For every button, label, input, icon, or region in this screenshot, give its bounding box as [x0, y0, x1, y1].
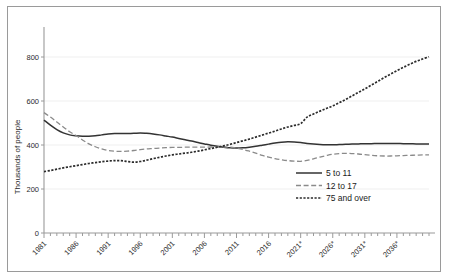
- y-axis-tick-labels: 0200400600800: [26, 53, 39, 238]
- series-line: [44, 113, 429, 162]
- x-tick-label: 2036*: [381, 239, 401, 259]
- y-tick-label: 0: [35, 229, 39, 238]
- x-axis-tick-labels: 198119861991199620012006201120162021*202…: [30, 239, 401, 259]
- y-tick-label: 400: [26, 141, 39, 150]
- legend-label: 5 to 11: [326, 168, 352, 178]
- x-tick-label: 1981: [30, 239, 48, 257]
- chart-frame: 0200400600800 19811986199119962001200620…: [7, 6, 441, 272]
- x-tick-label: 2016: [255, 239, 273, 257]
- chart-figure: 0200400600800 19811986199119962001200620…: [0, 0, 449, 279]
- axis-lines-group: [44, 27, 435, 233]
- x-axis-ticks: [44, 233, 429, 238]
- y-tick-label: 600: [26, 97, 39, 106]
- y-tick-label: 800: [26, 53, 39, 62]
- x-tick-label: 2021*: [285, 239, 305, 259]
- line-chart: 0200400600800 19811986199119962001200620…: [8, 7, 442, 273]
- chart-legend: 5 to 1112 to 1775 and over: [296, 168, 371, 203]
- data-series-group: [44, 57, 429, 172]
- x-tick-label: 2006: [191, 239, 209, 257]
- x-tick-label: 2031*: [349, 239, 369, 259]
- legend-label: 12 to 17: [326, 181, 357, 191]
- series-line: [44, 57, 429, 172]
- x-tick-label: 2011: [223, 239, 241, 257]
- x-tick-label: 2026*: [317, 239, 337, 259]
- x-tick-label: 2001: [159, 239, 177, 257]
- legend-label: 75 and over: [326, 193, 371, 203]
- series-line: [44, 120, 429, 148]
- x-tick-label: 1991: [94, 239, 112, 257]
- y-tick-label: 200: [26, 185, 39, 194]
- y-axis-title: Thousands of people: [13, 119, 22, 194]
- gridlines-group: [44, 57, 429, 189]
- x-tick-label: 1996: [127, 239, 145, 257]
- x-tick-label: 1986: [62, 239, 80, 257]
